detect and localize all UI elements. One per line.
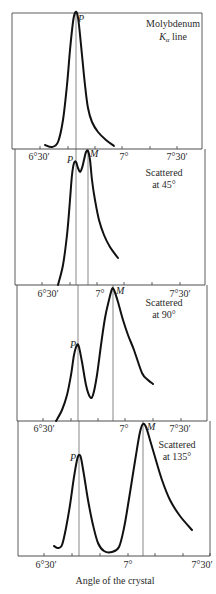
panel-3-annotation-line2: at 90° [152, 309, 176, 320]
panel-4-tick-label-7: 7° [124, 559, 133, 570]
panel-2-tick-label-6-30: 6°30′ [37, 288, 58, 299]
panel-1-annotation-line2: Kα line [158, 31, 187, 44]
panel-2-peak-p-label: P [66, 154, 73, 165]
x-axis-title: Angle of the crystal [75, 575, 154, 586]
panel-3-tick-label-7: 7° [120, 423, 129, 434]
panel-2-annotation-line2: at 45° [152, 179, 176, 190]
panel-4-annotation-line2: at 135° [163, 451, 192, 462]
intensity-curve [45, 12, 114, 147]
panel-3-tick-label-7-30: 7°30′ [169, 423, 190, 434]
panel-1-tick-label-7: 7° [120, 151, 129, 162]
panel-4-tick-label-7-30: 7°30′ [191, 559, 212, 570]
panel-4-annotation-line1: Scattered [158, 439, 195, 450]
panel-4-peak-m-label: M [146, 421, 156, 432]
panel-1-annotation-line1: Molybdenum [146, 18, 200, 29]
panel-1-tick-label-7-30: 7°30′ [166, 151, 187, 162]
intensity-curve [56, 288, 153, 421]
panel-2-tick-label-7: 7° [96, 288, 105, 299]
panel-1-tick-label-6-30: 6°30′ [28, 151, 49, 162]
compton-scattering-figure: Molybdenum Kα line P 6°30′ 7° 7°30′ Scat… [0, 0, 216, 594]
panel-1-peak-p-label: P [77, 13, 84, 24]
panel-3-peak-p-label: P [69, 339, 76, 350]
panel-3-annotation-line1: Scattered [145, 297, 182, 308]
panel-4-tick-label-6-30: 6°30′ [35, 559, 56, 570]
panel-4-peak-p-label: P [69, 452, 76, 463]
panel-3-peak-m-label: M [115, 285, 125, 296]
panel-2-peak-m-label: M [89, 148, 99, 159]
panel-3-tick-label-6-30: 6°30′ [33, 423, 54, 434]
panel-2-annotation-line1: Scattered [145, 167, 182, 178]
